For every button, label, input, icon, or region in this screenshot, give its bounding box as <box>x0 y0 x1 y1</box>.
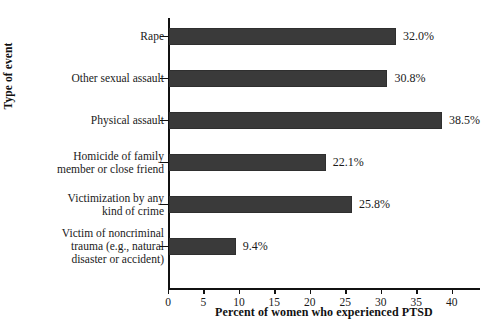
bar <box>169 28 396 45</box>
category-label: Homicide of family member or close frien… <box>18 150 164 176</box>
bar-value-label: 9.4% <box>243 238 268 255</box>
category-label: Victimization by any kind of crime <box>18 192 164 218</box>
x-axis-tick <box>239 288 240 294</box>
bar-value-label: 32.0% <box>403 28 434 45</box>
category-label: Physical assault <box>18 114 164 127</box>
bar <box>169 238 236 255</box>
bar <box>169 196 352 213</box>
x-axis-tick <box>416 288 417 294</box>
x-axis-line <box>168 288 480 290</box>
y-axis-tick <box>160 246 168 247</box>
y-axis-tick <box>160 36 168 37</box>
x-axis-tick <box>310 288 311 294</box>
y-axis-tick <box>160 204 168 205</box>
y-axis-tick <box>160 120 168 121</box>
bar-value-label: 38.5% <box>449 112 480 129</box>
x-axis-title: Percent of women who experienced PTSD <box>168 305 480 320</box>
category-label: Victim of noncriminal trauma (e.g., natu… <box>18 227 164 266</box>
bar <box>169 154 326 171</box>
x-axis-tick <box>274 288 275 294</box>
bar-chart: Type of event RapeOther sexual assaultPh… <box>0 0 495 335</box>
x-axis-tick <box>168 288 169 294</box>
bar <box>169 70 387 87</box>
x-axis-tick <box>345 288 346 294</box>
x-axis-tick <box>452 288 453 294</box>
category-label-column: RapeOther sexual assaultPhysical assault… <box>18 10 164 280</box>
bar <box>169 112 442 129</box>
y-axis-tick <box>160 78 168 79</box>
bar-value-label: 22.1% <box>333 154 364 171</box>
plot-area: 051015202530354032.0%30.8%38.5%22.1%25.8… <box>168 18 480 288</box>
category-label: Rape <box>18 30 164 43</box>
x-axis-tick <box>203 288 204 294</box>
category-label: Other sexual assault <box>18 72 164 85</box>
bar-value-label: 30.8% <box>394 70 425 87</box>
bar-value-label: 25.8% <box>359 196 390 213</box>
y-axis-tick <box>160 162 168 163</box>
x-axis-tick <box>381 288 382 294</box>
y-axis-title: Type of event <box>2 26 18 126</box>
